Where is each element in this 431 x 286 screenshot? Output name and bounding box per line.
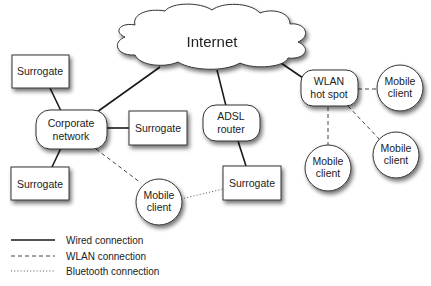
edge-wlan-mobile-lower-right — [348, 106, 380, 140]
edge-internet-adsl — [217, 70, 226, 106]
network-diagram: Internet Surrogate Corporate network Sur… — [0, 0, 431, 286]
node-mobile-client-below: Mobile client — [305, 145, 351, 191]
edge-corporate-mobile — [96, 149, 141, 183]
mobile-client-label-line2: client — [384, 154, 409, 166]
node-mobile-client-lower-right: Mobile client — [373, 132, 419, 178]
corporate-network-label-line2: network — [53, 130, 91, 142]
mobile-client-label-line2: client — [147, 201, 172, 213]
node-wlan-hot-spot: WLAN hot spot — [301, 70, 358, 106]
legend-item-wired: Wired connection — [11, 235, 143, 246]
internet-label: Internet — [187, 33, 239, 50]
wlan-hot-spot-label-line2: hot spot — [310, 88, 347, 100]
node-surrogate-top-left: Surrogate — [12, 55, 69, 88]
mobile-client-label-line1: Mobile — [385, 75, 416, 87]
mobile-client-label-line1: Mobile — [144, 189, 175, 201]
node-corporate-network: Corporate network — [36, 110, 107, 149]
adsl-router-label-line1: ADSL — [217, 110, 245, 122]
mobile-client-label-line2: client — [388, 87, 413, 99]
node-adsl-router: ADSL router — [203, 105, 260, 141]
edge-internet-wlan — [281, 63, 303, 78]
adsl-router-label-line2: router — [217, 123, 245, 135]
legend-label: Wired connection — [66, 235, 143, 246]
mobile-client-label-line2: client — [316, 167, 341, 179]
legend: Wired connection WLAN connection Bluetoo… — [11, 235, 159, 277]
node-mobile-client-right: Mobile client — [377, 65, 423, 111]
surrogate-label: Surrogate — [229, 177, 275, 189]
corporate-network-label-line1: Corporate — [48, 117, 95, 129]
node-internet: Internet — [117, 4, 305, 69]
node-surrogate-bottom-left: Surrogate — [11, 167, 69, 200]
mobile-client-label-line1: Mobile — [381, 142, 412, 154]
mobile-client-label-line1: Mobile — [313, 155, 344, 167]
surrogate-label: Surrogate — [17, 65, 63, 77]
legend-item-wlan: WLAN connection — [11, 251, 146, 262]
node-mobile-client-bluetooth: Mobile client — [136, 179, 182, 225]
legend-label: Bluetooth connection — [66, 266, 159, 277]
surrogate-label: Surrogate — [17, 178, 63, 190]
edge-internet-corporate — [97, 67, 160, 112]
surrogate-label: Surrogate — [135, 122, 181, 134]
node-surrogate-adsl: Surrogate — [223, 166, 281, 200]
edge-corporate-surrogate-bl — [52, 148, 61, 167]
node-surrogate-mid: Surrogate — [129, 111, 187, 145]
edge-surrogate-tl-corporate — [50, 88, 61, 111]
edge-mobile-surrogate-bt — [181, 189, 223, 199]
legend-label: WLAN connection — [66, 251, 146, 262]
legend-item-bluetooth: Bluetooth connection — [11, 266, 159, 277]
wlan-hot-spot-label-line1: WLAN — [314, 75, 344, 87]
edge-adsl-surrogate — [238, 141, 246, 166]
